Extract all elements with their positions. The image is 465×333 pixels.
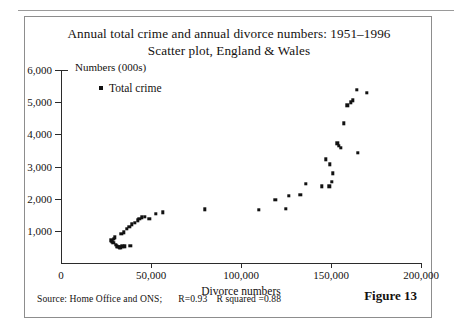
x-axis-tick-label: 200,000 <box>403 269 439 281</box>
data-point <box>203 208 206 211</box>
data-point <box>330 180 333 183</box>
data-point <box>123 245 126 248</box>
x-axis-tick <box>151 263 152 268</box>
figure-page: Annual total crime and annual divorce nu… <box>0 0 465 333</box>
correlation-r-squared: R squared =0.88 <box>216 293 281 304</box>
data-point <box>154 212 157 215</box>
data-point <box>355 88 358 91</box>
chart-legend: Total crime <box>99 82 162 94</box>
chart-title-line-2: Scatter plot, England & Wales <box>25 42 433 59</box>
correlation-r: R=0.93 <box>178 293 207 304</box>
y-axis-tick-label: 4,000 <box>27 128 52 140</box>
data-point <box>273 198 276 201</box>
y-axis-top-cap <box>61 70 68 71</box>
chart-title: Annual total crime and annual divorce nu… <box>25 25 433 59</box>
data-point <box>331 172 334 175</box>
data-point <box>365 91 368 94</box>
x-axis-tick <box>241 263 242 268</box>
y-axis-tick-label: 2,000 <box>27 193 52 205</box>
data-point <box>356 151 359 154</box>
x-axis-tick-label: 100,000 <box>223 269 259 281</box>
page-top-rule <box>18 10 454 11</box>
legend-label-total-crime: Total crime <box>109 82 162 94</box>
y-axis-tick-label: 5,000 <box>27 96 52 108</box>
data-point <box>287 194 290 197</box>
y-axis-tick-label: 3,000 <box>27 161 52 173</box>
data-point <box>324 158 327 161</box>
data-point <box>339 146 342 149</box>
y-axis-tick <box>55 199 61 200</box>
data-point <box>161 210 164 213</box>
y-axis-label: Numbers (000s) <box>75 61 146 73</box>
data-point <box>327 184 330 187</box>
data-point <box>113 236 116 239</box>
source-note: Source: Home Office and ONS;R=0.93R squa… <box>37 293 281 304</box>
x-axis-tick-label: 150,000 <box>313 269 349 281</box>
chart-title-line-1: Annual total crime and annual divorce nu… <box>25 25 433 42</box>
data-point <box>122 230 125 233</box>
source-label: Source: Home Office and ONS; <box>37 293 162 304</box>
legend-marker-icon <box>99 86 103 90</box>
y-axis-tick-label: 1,000 <box>27 225 52 237</box>
data-point <box>345 104 348 107</box>
x-axis-tick-label: 50,000 <box>136 269 166 281</box>
data-point <box>304 182 307 185</box>
data-point <box>320 185 323 188</box>
data-point <box>284 207 287 210</box>
data-point <box>299 193 302 196</box>
y-axis-tick <box>55 102 61 103</box>
x-axis-tick <box>331 263 332 268</box>
data-point <box>143 215 146 218</box>
x-axis-tick-label: 0 <box>58 269 64 281</box>
scatter-plot-area: Numbers (000s) Total crime Divorce numbe… <box>61 70 421 263</box>
y-axis-tick <box>55 70 61 71</box>
data-point <box>147 217 150 220</box>
y-axis-tick <box>55 134 61 135</box>
figure-box: Annual total crime and annual divorce nu… <box>24 16 432 318</box>
data-point <box>342 122 345 125</box>
y-axis-tick <box>55 231 61 232</box>
data-point <box>129 244 132 247</box>
figure-number: Figure 13 <box>364 288 417 304</box>
y-axis-tick <box>55 167 61 168</box>
data-point <box>257 208 260 211</box>
data-point <box>351 99 354 102</box>
y-axis-line <box>61 70 62 263</box>
y-axis-tick-label: 6,000 <box>27 64 52 76</box>
data-point <box>328 163 331 166</box>
x-axis-tick <box>421 263 422 268</box>
